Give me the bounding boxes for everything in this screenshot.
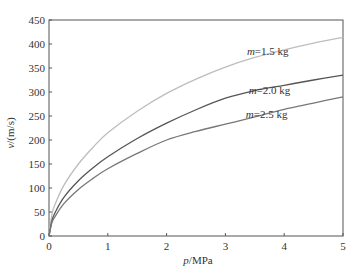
series-label-var: m: [246, 108, 254, 120]
y-axis-title: v/(m/s): [4, 117, 17, 149]
y-tick-label: 350: [29, 62, 46, 74]
chart: 050100150200250300350400450 012345 m=1.5…: [0, 0, 356, 278]
series-label: m=2.0 kg: [249, 84, 291, 96]
x-tick-label: 3: [223, 240, 229, 252]
y-axis-unit: /(m/s): [4, 117, 17, 144]
y-tick-label: 50: [34, 206, 46, 218]
x-tick-label: 2: [164, 240, 170, 252]
series-label: m=1.5 kg: [247, 45, 289, 57]
x-tick-label: 4: [281, 240, 287, 252]
y-tick-label: 200: [29, 134, 46, 146]
series-label-text: =2.0 kg: [257, 84, 291, 96]
series-group: [49, 37, 343, 236]
series-label-var: m: [249, 84, 257, 96]
x-tick-label: 5: [340, 240, 346, 252]
series-line: [49, 97, 343, 236]
series-line: [49, 37, 343, 236]
y-tick-label: 300: [29, 86, 46, 98]
x-axis-title: p/MPa: [182, 254, 212, 266]
series-label-text: =1.5 kg: [255, 45, 289, 57]
series-label-var: m: [247, 45, 255, 57]
x-tick-label: 0: [46, 240, 52, 252]
y-tick-label: 150: [29, 158, 46, 170]
y-tick-label: 450: [29, 14, 46, 26]
series-label-text: =2.5 kg: [254, 108, 288, 120]
series-line: [49, 75, 343, 236]
plot-frame: [49, 20, 343, 236]
y-tick-label: 100: [29, 182, 46, 194]
x-tick-label: 1: [105, 240, 111, 252]
y-tick-label: 400: [29, 38, 46, 50]
series-label: m=2.5 kg: [246, 108, 288, 120]
x-axis-unit: /MPa: [189, 254, 213, 266]
y-tick-label: 250: [29, 110, 46, 122]
y-tick-label: 0: [40, 230, 46, 242]
plot-border: [49, 20, 343, 236]
y-axis: 050100150200250300350400450: [29, 14, 53, 242]
series-labels: m=1.5 kgm=2.0 kgm=2.5 kg: [246, 45, 291, 121]
